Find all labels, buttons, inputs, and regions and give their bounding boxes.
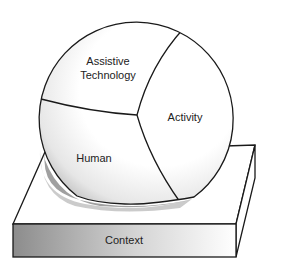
segment-label-technology: Technology	[80, 69, 136, 81]
sphere: Assistive Technology Activity Human	[39, 22, 233, 204]
segment-label-human: Human	[76, 152, 111, 164]
segment-label-assistive: Assistive	[86, 55, 129, 67]
context-label: Context	[105, 234, 143, 246]
hatp-model-diagram: Context Assistive Technology Activity Hu…	[0, 0, 281, 265]
segment-label-activity: Activity	[168, 111, 203, 123]
